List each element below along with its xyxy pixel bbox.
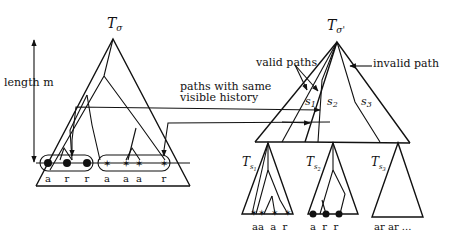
right-tree: Tσ' s1 s2 s3 valid paths invalid path <box>255 17 439 143</box>
subtree-s2-title: Ts2 <box>306 155 321 172</box>
branch <box>256 143 268 214</box>
leaf-dot-icon <box>83 159 91 167</box>
leaf-dot-icon <box>310 211 317 218</box>
length-label: length m <box>4 76 54 89</box>
leaf-dot-icon <box>323 211 330 218</box>
node-label-s2: s2 <box>327 95 338 109</box>
node-label-s1: s1 <box>305 95 316 109</box>
subtree-s1-leaves: aa a r <box>252 221 288 232</box>
connectors: paths with same visible history <box>72 80 330 150</box>
right-tree-title: Tσ' <box>327 17 345 35</box>
subtree-s2: Ts2 a r r <box>306 143 358 232</box>
leaf-star-icon: ✶ <box>135 158 143 169</box>
node-label-s3: s3 <box>361 95 372 109</box>
valid-paths-label: valid paths <box>255 56 317 69</box>
leaf-dot-icon <box>44 159 52 167</box>
leaf-star-icon: ✶ <box>122 158 130 169</box>
leaf-label: a <box>123 173 129 184</box>
subtree-s2-leaves: a r r <box>310 221 338 232</box>
leaf-label: r <box>162 173 167 184</box>
leaf-star-icon: ✶ <box>258 208 266 218</box>
subtree-s3-title: Ts3 <box>371 155 386 172</box>
leaf-star-icon: ✶ <box>103 158 111 169</box>
leaf-star-icon: ✶ <box>250 208 258 218</box>
branch-s2 <box>318 42 337 142</box>
invalid-path-label: invalid path <box>373 57 439 70</box>
leaf-label: r <box>65 173 70 184</box>
leaf-star-icon: ✶ <box>284 208 292 218</box>
leaf-label: r <box>85 173 90 184</box>
subtree-s3: Ts3 ar ar ... <box>371 143 423 232</box>
connector-label-2: visible history <box>179 91 259 104</box>
left-tree-title: Tσ <box>107 15 123 33</box>
branch <box>333 170 345 214</box>
subtree-s3-leaves: ar ar ... <box>374 221 411 232</box>
subtree-s1-title: Ts1 <box>242 155 257 172</box>
branch <box>87 95 100 160</box>
path-connector-1 <box>72 107 320 140</box>
branch <box>70 95 87 130</box>
subtree-s3-outline <box>372 143 423 217</box>
branch <box>104 76 165 160</box>
leaf-label: a <box>136 173 142 184</box>
diagram-canvas: Tσ length m ✶ ✶ ✶ ✶ a r r a a a r <box>0 0 460 240</box>
leaf-label: a <box>104 173 110 184</box>
path-connector-2a <box>164 122 330 150</box>
leaf-dot-icon <box>63 159 71 167</box>
branch <box>50 39 113 170</box>
left-tree: Tσ length m ✶ ✶ ✶ ✶ a r r a a a r <box>4 15 190 186</box>
branch <box>320 143 333 214</box>
leaf-dot-icon <box>336 211 343 218</box>
right-tree-base <box>305 142 410 143</box>
subtree-s1: Ts1 ✶ ✶ ✶ ✶ aa a r <box>242 143 293 232</box>
leaf-star-icon: ✶ <box>271 208 279 218</box>
leaf-label: a <box>45 173 51 184</box>
leaf-star-icon: ✶ <box>160 158 168 169</box>
